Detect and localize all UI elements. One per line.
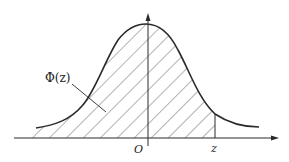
normal-distribution-diagram: Φ(z) O z [0, 0, 289, 162]
y-axis-arrow-icon [146, 13, 151, 21]
z-axis-label: z [210, 142, 217, 155]
x-axis-arrow-icon [271, 136, 279, 141]
phi-z-label: Φ(z) [45, 71, 71, 85]
origin-label: O [134, 143, 143, 156]
